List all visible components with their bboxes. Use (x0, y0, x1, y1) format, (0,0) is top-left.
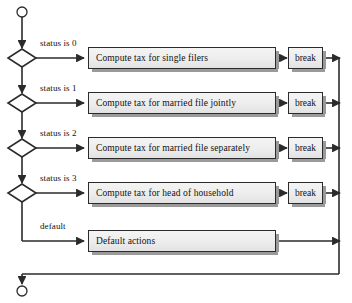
end-circle-icon (17, 286, 27, 296)
break-box-1[interactable]: break (288, 47, 323, 69)
action-box-1[interactable]: Compute tax for single filers (88, 47, 276, 69)
action-box-4-label: Compute tax for head of household (89, 188, 234, 198)
edge-label-default: default (40, 221, 66, 231)
break-box-3-label: break (295, 143, 316, 153)
action-box-4[interactable]: Compute tax for head of household (88, 182, 276, 204)
action-box-2-label: Compute tax for married file jointly (89, 98, 236, 108)
edge-label-condition-1: status is 0 (40, 38, 77, 48)
break-box-4-label: break (295, 188, 316, 198)
break-box-2[interactable]: break (288, 92, 323, 114)
action-box-3[interactable]: Compute tax for married file separately (88, 137, 276, 159)
default-action-box[interactable]: Default actions (88, 230, 276, 252)
diamond-decision-icon-1 (8, 49, 36, 67)
action-box-3-label: Compute tax for married file separately (89, 143, 250, 153)
break-box-2-label: break (295, 98, 316, 108)
edge-label-condition-2: status is 1 (40, 83, 77, 93)
break-box-4[interactable]: break (288, 182, 323, 204)
diamond-decision-icon-2 (8, 94, 36, 112)
start-circle-icon (17, 7, 27, 17)
break-box-1-label: break (295, 53, 316, 63)
diamond-decision-icon-3 (8, 139, 36, 157)
edge-label-condition-3: status is 2 (40, 128, 77, 138)
action-box-1-label: Compute tax for single filers (89, 53, 208, 63)
edge-label-condition-4: status is 3 (40, 173, 77, 183)
break-box-3[interactable]: break (288, 137, 323, 159)
action-box-2[interactable]: Compute tax for married file jointly (88, 92, 276, 114)
flowchart-canvas: status is 0 status is 1 status is 2 stat… (0, 0, 352, 303)
diamond-decision-icon-4 (8, 184, 36, 202)
default-action-box-label: Default actions (89, 236, 155, 246)
